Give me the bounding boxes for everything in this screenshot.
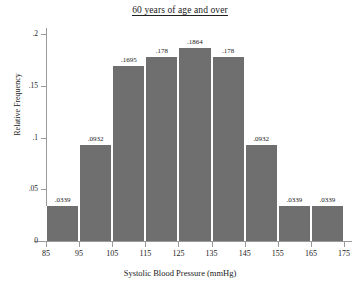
histogram-bar xyxy=(278,206,311,241)
x-axis-tick xyxy=(79,242,80,247)
plot-area: .0339.0932.1695.178.1864.178.0932.0339.0… xyxy=(46,24,352,241)
histogram-bar xyxy=(46,206,79,241)
x-axis-tick xyxy=(46,242,47,247)
histogram-bar xyxy=(178,48,211,241)
histogram-bar xyxy=(145,57,178,241)
x-axis-tick xyxy=(245,242,246,247)
x-axis-tick-label: 175 xyxy=(329,250,359,258)
bar-value-label: .178 xyxy=(212,48,245,55)
x-axis-title: Systolic Blood Pressure (mmHg) xyxy=(0,268,360,278)
bar-value-label: .0932 xyxy=(245,136,278,143)
x-axis-tick xyxy=(145,242,146,247)
histogram-bar xyxy=(245,145,278,241)
x-axis-tick xyxy=(112,242,113,247)
x-axis-tick-label: 115 xyxy=(130,250,160,258)
x-axis-tick-label: 105 xyxy=(97,250,127,258)
y-axis-title: Relative Frequency xyxy=(13,40,22,170)
x-axis-tick xyxy=(178,242,179,247)
x-axis-tick xyxy=(278,242,279,247)
bar-value-label: .0339 xyxy=(46,197,79,204)
x-axis-tick-label: 145 xyxy=(230,250,260,258)
bar-value-label: .1864 xyxy=(178,39,211,46)
x-axis-line xyxy=(34,241,352,242)
x-axis-tick xyxy=(311,242,312,247)
y-axis-tick-label: 0 xyxy=(0,237,38,245)
bar-value-label: .0932 xyxy=(79,136,112,143)
chart-title-text: 60 years of age and over xyxy=(132,5,228,16)
bar-value-label: .1695 xyxy=(112,57,145,64)
histogram-chart: 60 years of age and over 0.05.1.15.2 859… xyxy=(0,0,360,289)
bar-value-label: .0339 xyxy=(311,197,344,204)
histogram-bar xyxy=(311,206,344,241)
histogram-bar xyxy=(212,57,245,241)
x-axis-tick-label: 155 xyxy=(263,250,293,258)
x-axis-tick-label: 95 xyxy=(64,250,94,258)
bar-value-label: .0339 xyxy=(278,197,311,204)
x-axis-tick-label: 125 xyxy=(163,250,193,258)
x-axis-tick-label: 85 xyxy=(31,250,61,258)
histogram-bar xyxy=(79,145,112,241)
chart-title: 60 years of age and over xyxy=(0,5,360,15)
bar-value-label: .178 xyxy=(145,48,178,55)
histogram-bar xyxy=(112,66,145,241)
y-axis-tick-label: .2 xyxy=(0,30,38,38)
x-axis-tick-label: 165 xyxy=(296,250,326,258)
y-axis-tick-label: .05 xyxy=(0,185,38,193)
x-axis-tick-label: 135 xyxy=(197,250,227,258)
x-axis-tick xyxy=(212,242,213,247)
x-axis-tick xyxy=(344,242,345,247)
